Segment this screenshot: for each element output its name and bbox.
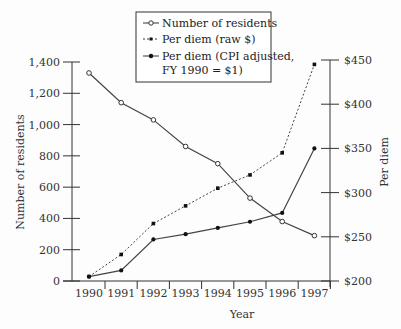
chart: 02004006008001,0001,2001,400 $200$250$30… [0, 0, 401, 329]
left-tick-label: 400 [39, 212, 60, 225]
data-point [280, 151, 284, 155]
left-tick-label: 1,000 [29, 119, 61, 132]
right-y-axis-title: Per diem [378, 137, 391, 187]
series-line-1 [89, 64, 314, 276]
x-tick-label: 1996 [268, 287, 296, 300]
data-point [312, 233, 317, 238]
data-point [280, 211, 284, 215]
x-tick-label: 1993 [172, 287, 200, 300]
right-tick-label: $400 [344, 98, 372, 111]
right-y-axis: $200$250$300$350$400$450 [321, 54, 372, 288]
data-point [151, 237, 155, 241]
data-point [119, 100, 124, 105]
left-tick-label: 1,200 [29, 87, 61, 100]
series-layer [87, 63, 317, 279]
x-axis-title: Year [229, 308, 255, 321]
open-circle-marker-icon [149, 21, 153, 25]
legend: Number of residents Per diem (raw $) Per… [136, 12, 294, 82]
x-tick-label: 1990 [75, 287, 103, 300]
data-point [119, 253, 123, 257]
x-axis: 19901991199219931994199519961997 [63, 281, 330, 300]
right-tick-label: $450 [344, 54, 372, 67]
left-y-axis: 02004006008001,0001,2001,400 [29, 56, 81, 288]
x-tick-label: 1997 [300, 287, 328, 300]
legend-label-cpi-line2: FY 1990 = $1) [162, 64, 243, 77]
legend-label-raw: Per diem (raw $) [162, 33, 255, 46]
data-point [184, 204, 188, 208]
x-tick-label: 1994 [204, 287, 232, 300]
data-point [248, 220, 252, 224]
x-tick-label: 1991 [107, 287, 135, 300]
left-tick-label: 600 [39, 181, 60, 194]
data-point [280, 219, 285, 224]
data-point [87, 71, 92, 76]
data-point [216, 186, 220, 190]
left-tick-label: 1,400 [29, 56, 61, 69]
data-point [248, 173, 252, 177]
data-point [87, 274, 91, 278]
data-point [151, 118, 156, 123]
data-point [216, 161, 221, 166]
data-point [216, 226, 220, 230]
data-point [312, 146, 316, 150]
filled-circle-marker-icon [149, 54, 153, 58]
right-tick-label: $300 [344, 187, 372, 200]
right-tick-label: $350 [344, 142, 372, 155]
legend-label-cpi-line1: Per diem (CPI adjusted, [162, 50, 294, 63]
left-tick-label: 200 [39, 244, 60, 257]
left-tick-label: 0 [53, 275, 60, 288]
legend-label-residents: Number of residents [162, 17, 278, 30]
data-point [313, 63, 317, 67]
right-tick-label: $250 [344, 231, 372, 244]
x-tick-label: 1992 [139, 287, 167, 300]
right-tick-label: $200 [344, 275, 372, 288]
data-point [183, 144, 188, 149]
filled-square-marker-icon [150, 38, 153, 41]
left-y-axis-title: Number of residents [14, 114, 27, 230]
data-point [248, 196, 253, 201]
x-tick-label: 1995 [236, 287, 264, 300]
left-tick-label: 800 [39, 150, 60, 163]
data-point [152, 222, 156, 226]
data-point [119, 268, 123, 272]
data-point [184, 232, 188, 236]
